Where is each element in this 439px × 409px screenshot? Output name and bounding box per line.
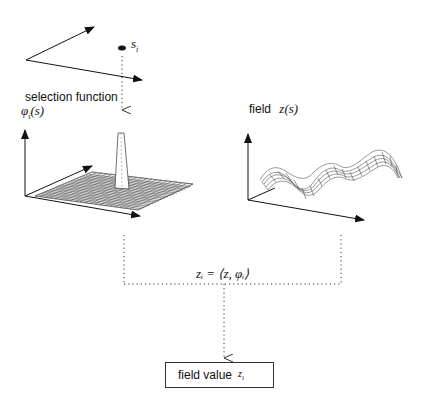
z-subscript: i xyxy=(242,374,244,382)
selection-function-plot xyxy=(25,130,193,216)
field-symbol: z(s) xyxy=(279,101,298,116)
sample-point xyxy=(118,46,126,51)
diagram-canvas xyxy=(0,0,439,409)
field-value-label: field value xyxy=(178,368,232,382)
domain-axes xyxy=(26,27,142,80)
selection-function-title: selection function xyxy=(25,90,118,104)
field-title: field z(s) xyxy=(249,101,298,117)
selection-function-symbol: φi(s) xyxy=(21,103,44,121)
phi-argument: (s) xyxy=(30,103,44,118)
inner-product-equation: zᵢ = ⟨z, φᵢ⟩ xyxy=(196,266,249,282)
field-title-text: field xyxy=(249,102,271,116)
point-subscript: i xyxy=(136,45,138,54)
dotted-connector xyxy=(124,235,341,358)
selection-spike xyxy=(115,133,129,189)
field-value-box: field value zi xyxy=(165,362,274,388)
sample-point-label: si xyxy=(131,36,138,54)
field-plot xyxy=(248,134,402,220)
field-value-symbol: zi xyxy=(238,368,244,382)
